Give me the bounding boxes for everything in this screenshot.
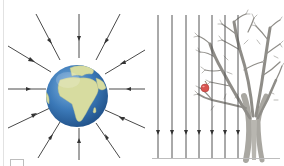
corner-box [10, 159, 24, 166]
earth-globe [46, 65, 108, 127]
apple [201, 81, 209, 92]
gravity-field-diagram [0, 0, 284, 166]
uniform-arrowheads [156, 130, 240, 135]
diagram-canvas [0, 0, 284, 166]
